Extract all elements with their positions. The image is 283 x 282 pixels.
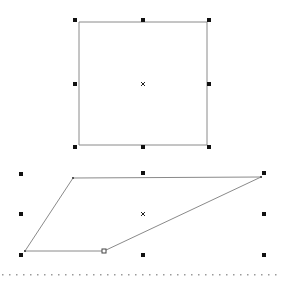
dotted-separator-dot xyxy=(135,274,137,276)
dotted-separator-dot xyxy=(184,274,186,276)
dotted-separator-dot xyxy=(121,274,123,276)
dotted-separator-dot xyxy=(247,274,249,276)
dotted-separator-dot xyxy=(226,274,228,276)
vertex-marker[interactable] xyxy=(24,250,26,252)
dotted-separator-dot xyxy=(156,274,158,276)
dotted-separator-dot xyxy=(2,274,4,276)
dotted-separator-dot xyxy=(51,274,53,276)
dotted-separator-dot xyxy=(37,274,39,276)
resize-handle[interactable] xyxy=(19,212,23,216)
resize-handle[interactable] xyxy=(207,82,211,86)
dotted-separator-dot xyxy=(128,274,130,276)
center-x-icon xyxy=(141,82,145,86)
dotted-separator-dot xyxy=(233,274,235,276)
resize-handle[interactable] xyxy=(141,145,145,149)
dotted-separator-dot xyxy=(198,274,200,276)
dotted-separator-dot xyxy=(261,274,263,276)
vertex-marker[interactable] xyxy=(72,177,74,179)
resize-handle[interactable] xyxy=(73,18,77,22)
selected-vertex-handle[interactable] xyxy=(102,249,106,253)
resize-handle[interactable] xyxy=(73,82,77,86)
resize-handle[interactable] xyxy=(141,18,145,22)
dotted-separator-dot xyxy=(72,274,74,276)
resize-handle[interactable] xyxy=(141,253,145,257)
dotted-separator-dot xyxy=(254,274,256,276)
dotted-separator-dot xyxy=(93,274,95,276)
center-x-icon xyxy=(141,212,145,216)
resize-handle[interactable] xyxy=(73,145,77,149)
dotted-separator-dot xyxy=(58,274,60,276)
vertex-marker[interactable] xyxy=(260,176,262,178)
drawing-canvas[interactable] xyxy=(0,0,283,282)
dotted-separator-dot xyxy=(219,274,221,276)
dotted-separator-dot xyxy=(212,274,214,276)
dotted-separator-dot xyxy=(16,274,18,276)
dotted-separator-dot xyxy=(65,274,67,276)
resize-handle[interactable] xyxy=(207,145,211,149)
dotted-separator-dot xyxy=(114,274,116,276)
resize-handle[interactable] xyxy=(262,212,266,216)
resize-handle[interactable] xyxy=(207,18,211,22)
dotted-separator-dot xyxy=(177,274,179,276)
dotted-separator-dot xyxy=(268,274,270,276)
dotted-separator-dot xyxy=(275,274,277,276)
dotted-separator-dot xyxy=(9,274,11,276)
resize-handle[interactable] xyxy=(262,171,266,175)
dotted-separator-dot xyxy=(205,274,207,276)
dotted-separator-dot xyxy=(170,274,172,276)
dotted-separator-dot xyxy=(142,274,144,276)
dotted-separator-dot xyxy=(149,274,151,276)
dotted-separator-dot xyxy=(240,274,242,276)
dotted-separator-dot xyxy=(44,274,46,276)
dotted-separator-dot xyxy=(86,274,88,276)
dotted-separator-dot xyxy=(79,274,81,276)
dotted-separator-dot xyxy=(100,274,102,276)
resize-handle[interactable] xyxy=(141,171,145,175)
resize-handle[interactable] xyxy=(19,253,23,257)
dotted-separator-dot xyxy=(191,274,193,276)
dotted-separator-dot xyxy=(23,274,25,276)
resize-handle[interactable] xyxy=(19,172,23,176)
dotted-separator-dot xyxy=(107,274,109,276)
dotted-separator-dot xyxy=(30,274,32,276)
resize-handle[interactable] xyxy=(262,253,266,257)
dotted-separator-dot xyxy=(163,274,165,276)
